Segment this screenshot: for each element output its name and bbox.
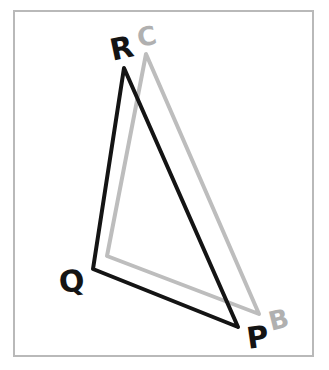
vertex-label-q: Q xyxy=(57,262,87,300)
triangle-abc xyxy=(107,54,259,314)
vertex-label-b: B xyxy=(265,303,291,337)
vertex-label-r: R xyxy=(107,29,137,68)
vertex-label-c: C xyxy=(134,20,159,53)
border-frame xyxy=(14,11,313,356)
vertex-label-p: P xyxy=(244,318,271,356)
triangle-pqr xyxy=(93,68,238,327)
geometry-figure: RCQPB xyxy=(0,0,329,370)
figure-container: RCQPB xyxy=(0,0,329,370)
